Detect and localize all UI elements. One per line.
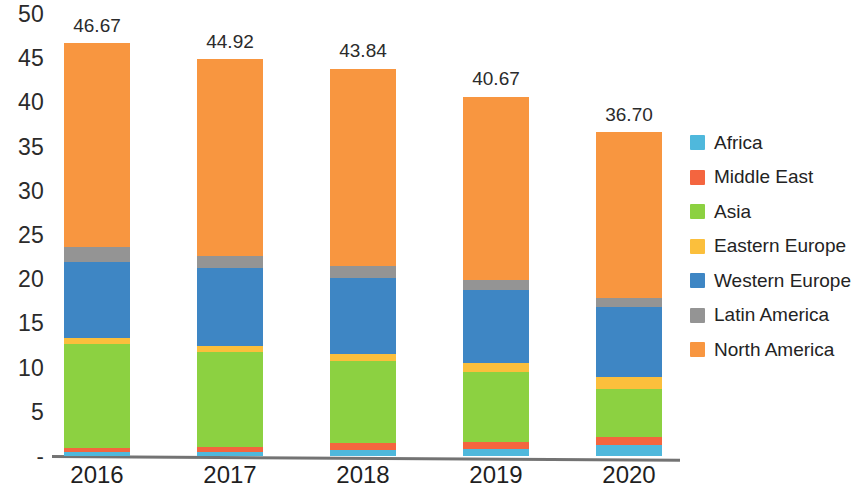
bar-total-label: 36.70 xyxy=(605,105,653,124)
y-axis-tick-label: 50 xyxy=(18,3,44,26)
legend-item-label: Africa xyxy=(714,133,763,153)
legend: AfricaMiddle EastAsiaEastern EuropeWeste… xyxy=(690,128,853,370)
bar-segment-africa[interactable] xyxy=(463,449,529,456)
bar-segment-middle-east[interactable] xyxy=(463,442,529,449)
bar-segment-western-europe[interactable] xyxy=(197,268,263,346)
bar-stack[interactable] xyxy=(463,97,529,456)
x-axis-tick-label: 2018 xyxy=(336,462,389,488)
x-axis-tick-label: 2017 xyxy=(203,462,256,488)
bar-segment-middle-east[interactable] xyxy=(596,437,662,445)
bar-stack[interactable] xyxy=(64,43,130,456)
legend-item[interactable]: Latin America xyxy=(690,301,853,330)
bar-segment-asia[interactable] xyxy=(64,344,130,448)
legend-color-swatch-icon xyxy=(690,239,705,254)
bar-segment-western-europe[interactable] xyxy=(596,307,662,378)
bar-total-label: 43.84 xyxy=(339,41,387,60)
bar-segment-western-europe[interactable] xyxy=(330,278,396,354)
y-axis-tick-label: 45 xyxy=(18,47,44,70)
bar-segment-latin-america[interactable] xyxy=(197,256,263,268)
bar-segment-africa[interactable] xyxy=(330,450,396,456)
bar-segment-western-europe[interactable] xyxy=(463,290,529,363)
legend-item[interactable]: Africa xyxy=(690,128,853,157)
y-axis-tick-label: 30 xyxy=(18,179,44,202)
bar-stack[interactable] xyxy=(596,132,662,456)
legend-item[interactable]: Middle East xyxy=(690,163,853,192)
y-axis-tick-label: 15 xyxy=(18,312,44,335)
y-axis-tick-label: 20 xyxy=(18,268,44,291)
bar-segment-eastern-europe[interactable] xyxy=(463,363,529,371)
bar-segment-eastern-europe[interactable] xyxy=(596,377,662,388)
y-axis-tick-label: 5 xyxy=(31,400,44,423)
legend-color-swatch-icon xyxy=(690,204,705,219)
bar-segment-africa[interactable] xyxy=(197,452,263,456)
bar-segment-latin-america[interactable] xyxy=(64,247,130,261)
bar-segment-eastern-europe[interactable] xyxy=(330,354,396,361)
legend-color-swatch-icon xyxy=(690,273,705,288)
bar-stack[interactable] xyxy=(330,69,396,457)
bar-group: 40.672019 xyxy=(463,0,529,495)
bar-segment-north-america[interactable] xyxy=(197,59,263,256)
legend-item-label: Middle East xyxy=(714,167,813,187)
bar-segment-asia[interactable] xyxy=(330,361,396,443)
bar-group: 46.672016 xyxy=(64,0,130,495)
bar-segment-western-europe[interactable] xyxy=(64,262,130,339)
y-axis-tick-label: - xyxy=(36,445,44,468)
bar-segment-north-america[interactable] xyxy=(596,132,662,298)
legend-item-label: Latin America xyxy=(714,305,829,325)
y-axis: -5101520253035404550 xyxy=(0,0,52,495)
bar-segment-north-america[interactable] xyxy=(463,97,529,281)
bar-group: 43.842018 xyxy=(330,0,396,495)
legend-color-swatch-icon xyxy=(690,135,705,150)
y-axis-tick-label: 35 xyxy=(18,135,44,158)
bar-group: 44.922017 xyxy=(197,0,263,495)
legend-color-swatch-icon xyxy=(690,308,705,323)
plot-area: 46.67201644.92201743.84201840.67201936.7… xyxy=(52,0,680,495)
bar-segment-latin-america[interactable] xyxy=(463,280,529,290)
x-axis-tick-label: 2020 xyxy=(602,462,655,488)
bar-total-label: 46.67 xyxy=(73,16,121,35)
x-axis-tick-label: 2016 xyxy=(70,462,123,488)
bar-total-label: 44.92 xyxy=(206,32,254,51)
legend-item-label: North America xyxy=(714,340,834,360)
bar-segment-asia[interactable] xyxy=(197,352,263,447)
bar-segment-latin-america[interactable] xyxy=(330,266,396,277)
legend-item[interactable]: Asia xyxy=(690,197,853,226)
bar-segment-north-america[interactable] xyxy=(330,69,396,267)
legend-item[interactable]: Eastern Europe xyxy=(690,232,853,261)
y-axis-tick-label: 40 xyxy=(18,91,44,114)
legend-item-label: Eastern Europe xyxy=(714,236,846,256)
bar-segment-north-america[interactable] xyxy=(64,43,130,247)
legend-item[interactable]: Western Europe xyxy=(690,266,853,295)
bar-segment-middle-east[interactable] xyxy=(330,443,396,450)
y-axis-tick-label: 25 xyxy=(18,224,44,247)
stacked-bar-chart: -5101520253035404550 46.67201644.9220174… xyxy=(0,0,853,495)
legend-item[interactable]: North America xyxy=(690,335,853,364)
bar-segment-africa[interactable] xyxy=(64,452,130,456)
bar-stack[interactable] xyxy=(197,59,263,456)
legend-color-swatch-icon xyxy=(690,342,705,357)
bar-segment-africa[interactable] xyxy=(596,445,662,456)
x-axis-tick-label: 2019 xyxy=(469,462,522,488)
bar-group: 36.702020 xyxy=(596,0,662,495)
legend-item-label: Western Europe xyxy=(714,271,851,291)
bar-segment-latin-america[interactable] xyxy=(596,298,662,307)
legend-item-label: Asia xyxy=(714,202,751,222)
bar-segment-asia[interactable] xyxy=(463,372,529,443)
bar-total-label: 40.67 xyxy=(472,69,520,88)
bar-segment-asia[interactable] xyxy=(596,389,662,438)
y-axis-tick-label: 10 xyxy=(18,356,44,379)
legend-color-swatch-icon xyxy=(690,170,705,185)
